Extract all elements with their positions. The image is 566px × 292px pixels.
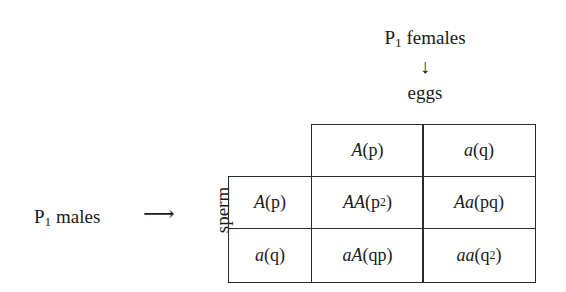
parent-letter: P: [384, 27, 395, 48]
genotype: AA: [343, 192, 365, 213]
row-header-A: A(p): [228, 176, 312, 229]
p1-males-label: P1 males: [34, 206, 100, 230]
allele: a: [255, 245, 264, 266]
eggs-label: eggs: [340, 82, 510, 104]
allele-frequency: (p): [363, 140, 384, 161]
genotype-frequency: (qp: [363, 245, 387, 266]
sex-label: males: [51, 206, 100, 227]
row-header-a: a(q): [228, 228, 312, 283]
cell-aA: aA(qp): [311, 228, 424, 283]
allele: A: [352, 140, 363, 161]
cell-Aa: Aa(pq): [422, 176, 536, 229]
genotype-frequency: (q: [475, 245, 490, 266]
genotype: Aa: [454, 192, 474, 213]
paren-close: ): [495, 245, 501, 266]
genotype: aA: [343, 245, 363, 266]
p1-females-label: P1 females: [340, 27, 510, 51]
genotype-frequency: (pq: [474, 192, 498, 213]
generation-subscript: 1: [395, 35, 402, 50]
paren-close: ): [498, 192, 504, 213]
allele-frequency: (q): [264, 245, 285, 266]
column-header-a: a(q): [422, 124, 536, 177]
cell-AA: AA(p2): [311, 176, 424, 229]
paren-close: ): [386, 192, 392, 213]
sex-label: females: [402, 27, 466, 48]
column-header-A: A(p): [311, 124, 424, 177]
cell-aa: aa(q2): [422, 228, 536, 283]
allele-frequency: (q): [473, 140, 494, 161]
paren-close: ): [387, 245, 393, 266]
genotype-frequency: (p: [365, 192, 380, 213]
parent-letter: P: [34, 206, 45, 227]
genotype: aa: [457, 245, 475, 266]
down-arrow-icon: ↓: [340, 54, 510, 78]
right-arrow-icon: ⟶: [143, 201, 175, 227]
allele-frequency: (p): [265, 192, 286, 213]
allele: a: [464, 140, 473, 161]
allele: A: [254, 192, 265, 213]
